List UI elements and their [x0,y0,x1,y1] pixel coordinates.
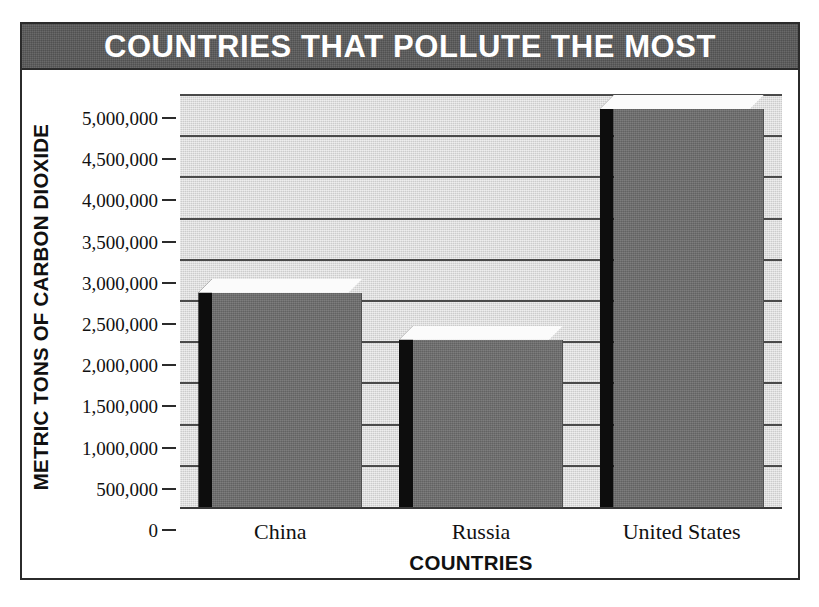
x-axis-title: COUNTRIES [160,551,782,575]
y-axis-title-container: METRIC TONS OF CARBON DIOXIDE [24,72,58,542]
chart-title-banner: COUNTRIES THAT POLLUTE THE MOST [22,24,798,70]
x-axis-category-label: Russia [381,521,582,543]
y-axis-title: METRIC TONS OF CARBON DIOXIDE [29,124,53,490]
y-axis-tick-label: 0 [58,521,158,540]
y-axis-tick-label: 3,500,000 [58,232,158,251]
x-axis-category-label: China [180,521,381,543]
y-axis-tick-label: 2,000,000 [58,356,158,375]
x-axis-category-label: United States [581,521,782,543]
y-axis-tick-label: 500,000 [58,479,158,498]
y-axis-tick-label: 1,000,000 [58,438,158,457]
x-axis-baseline [180,507,782,509]
plot-area: ChinaRussiaUnited States COUNTRIES [160,72,782,542]
y-axis-tick-label: 1,500,000 [58,397,158,416]
chart-figure: COUNTRIES THAT POLLUTE THE MOST METRIC T… [20,22,800,580]
bar-top-face [600,95,764,109]
bar[interactable] [413,340,563,507]
bar[interactable] [212,293,362,507]
bar-front-face [212,293,362,507]
y-axis-tick-label: 4,500,000 [58,150,158,169]
bar-top-face [198,279,362,293]
y-axis-tick-label: 3,000,000 [58,273,158,292]
bar-front-face [614,109,764,507]
y-axis-tick-label: 5,000,000 [58,109,158,128]
y-axis-tick-label: 4,000,000 [58,191,158,210]
bar-side-face [198,279,212,507]
bar-top-face [399,326,563,340]
y-axis-tick-label: 2,500,000 [58,315,158,334]
y-axis-tick-labels: 5,000,0004,500,0004,000,0003,500,0003,00… [58,72,158,542]
chart-title: COUNTRIES THAT POLLUTE THE MOST [104,31,716,62]
bar[interactable] [614,109,764,507]
bar-side-face [399,326,413,507]
bar-side-face [600,95,614,507]
bar-front-face [413,340,563,507]
